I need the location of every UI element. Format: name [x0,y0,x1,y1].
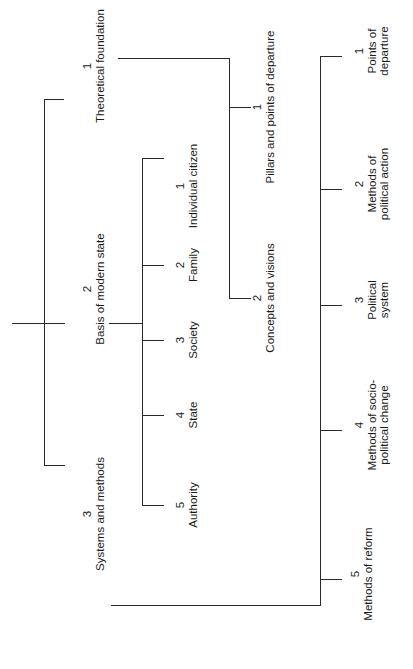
basis-child-4-label: 4 State [174,390,202,440]
basis-child-2-number: 2 [174,235,187,295]
basis-child-3-number: 3 [174,305,187,375]
root-tick-3 [44,465,65,466]
systems-child-4-line-1: Methods of socio- [366,365,379,485]
basis-child-2-text: Family [187,235,200,295]
basis-child-3-text: Society [187,305,200,375]
systems-child-5-label: 5 Methods of reform [349,514,377,634]
theory-stem [118,58,230,59]
basis-vertical-line-lower [142,417,143,506]
root-branch-2-number: 2 [81,214,94,364]
systems-child-2-line-1: Methods of [366,124,379,244]
theory-child-1-text: Pillars and points of departure [264,12,277,202]
systems-child-1-label: 1 Points of departure [353,11,393,91]
systems-tick-3 [320,305,342,306]
root-branch-3-label: 3 Systems and methods [81,439,109,589]
root-branch-3-number: 3 [81,439,94,589]
root-branch-1-label: 1 Theoretical foundation [81,0,109,136]
theory-child-1-number: 1 [251,12,264,202]
basis-child-1-label: 1 Individual citizen [174,131,202,241]
systems-child-2-number: 2 [353,124,366,244]
hierarchy-diagram: 1 Theoretical foundation 2 Basis of mode… [0,0,413,669]
basis-child-5-number: 5 [174,470,187,540]
systems-child-4-label: 4 Methods of socio- political change [353,365,393,485]
theory-child-2-number: 2 [251,228,264,368]
root-stem [12,323,45,324]
theory-child-2-text: Concepts and visions [264,228,277,368]
theory-tick-2 [229,298,251,299]
systems-tick-4 [320,430,342,431]
basis-child-2-label: 2 Family [174,235,202,295]
root-vertical-line [44,99,45,465]
basis-child-5-label: 5 Authority [174,470,202,540]
systems-tick-1 [320,56,342,57]
systems-tick-5 [320,579,342,580]
basis-child-5-text: Authority [187,470,200,540]
basis-child-4-number: 4 [174,390,187,440]
root-branch-1-text: Theoretical foundation [94,0,107,136]
systems-child-4-number: 4 [353,365,366,485]
root-tick-2 [44,323,65,324]
basis-tick-5 [142,505,164,506]
systems-child-1-line-2: departure [378,11,391,91]
basis-stem [109,323,143,324]
basis-child-1-number: 1 [174,131,187,241]
root-branch-1-number: 1 [81,0,94,136]
systems-child-3-label: 3 Political system [353,260,393,340]
theory-vertical-line [229,58,230,298]
root-branch-2-text: Basis of modern state [94,214,107,364]
basis-tick-2 [142,265,164,266]
systems-child-2-line-2: political action [378,124,391,244]
systems-stem [111,605,321,606]
theory-tick-1 [229,107,251,108]
basis-vertical-line [142,158,143,418]
systems-child-5-number: 5 [349,514,362,634]
systems-child-1-line-1: Points of [366,11,379,91]
systems-child-4-line-2: political change [378,365,391,485]
basis-child-3-label: 3 Society [174,305,202,375]
root-tick-1 [44,99,64,100]
theory-child-2-label: 2 Concepts and visions [251,228,279,368]
root-branch-2-label: 2 Basis of modern state [81,214,109,364]
basis-child-4-text: State [187,390,200,440]
theory-child-1-label: 1 Pillars and points of departure [251,12,279,202]
systems-vertical-line [320,56,321,606]
systems-child-3-number: 3 [353,260,366,340]
systems-child-1-number: 1 [353,11,366,91]
basis-child-1-text: Individual citizen [187,131,200,241]
systems-child-2-label: 2 Methods of political action [353,124,393,244]
systems-child-3-line-2: system [378,260,391,340]
systems-child-3-line-1: Political [366,260,379,340]
basis-tick-3 [142,340,164,341]
basis-tick-4 [142,415,164,416]
root-branch-3-text: Systems and methods [94,439,107,589]
systems-child-5-line-1: Methods of reform [362,514,375,634]
systems-tick-2 [320,189,342,190]
basis-tick-1 [142,158,164,159]
